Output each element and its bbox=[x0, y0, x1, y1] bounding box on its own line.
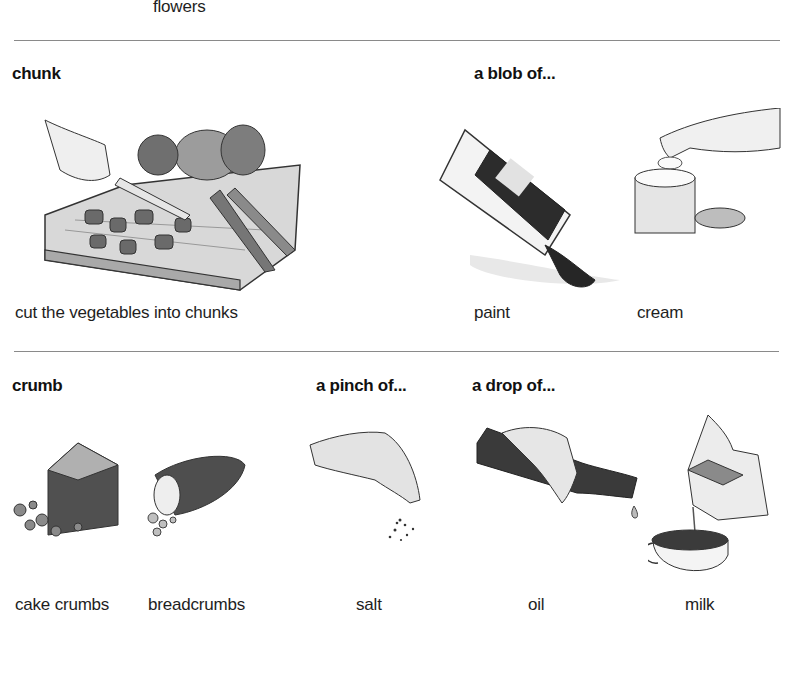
caption-milk: milk bbox=[685, 595, 714, 615]
caption-chunks: cut the vegetables into chunks bbox=[15, 303, 238, 323]
divider-middle bbox=[14, 351, 779, 352]
salt-pinch-illustration bbox=[305, 425, 435, 550]
heading-a-blob-of: a blob of... bbox=[474, 64, 555, 84]
breadcrumbs-illustration bbox=[145, 450, 255, 540]
caption-cake-crumbs: cake crumbs bbox=[15, 595, 109, 615]
heading-chunk: chunk bbox=[12, 64, 61, 84]
caption-oil: oil bbox=[528, 595, 544, 615]
divider-top bbox=[14, 40, 780, 41]
heading-a-pinch-of: a pinch of... bbox=[316, 376, 407, 396]
heading-a-drop-of: a drop of... bbox=[472, 376, 555, 396]
heading-crumb: crumb bbox=[12, 376, 62, 396]
paint-tube-illustration bbox=[430, 105, 630, 295]
vegetables-chopping-illustration bbox=[15, 100, 325, 295]
caption-breadcrumbs: breadcrumbs bbox=[148, 595, 245, 615]
milk-carton-illustration bbox=[648, 415, 783, 585]
caption-flowers: flowers bbox=[153, 0, 205, 17]
cream-jar-illustration bbox=[630, 108, 785, 248]
caption-paint: paint bbox=[474, 303, 510, 323]
caption-cream: cream bbox=[637, 303, 683, 323]
cake-crumbs-illustration bbox=[8, 435, 128, 540]
oil-bottle-illustration bbox=[472, 418, 642, 528]
caption-salt: salt bbox=[356, 595, 382, 615]
